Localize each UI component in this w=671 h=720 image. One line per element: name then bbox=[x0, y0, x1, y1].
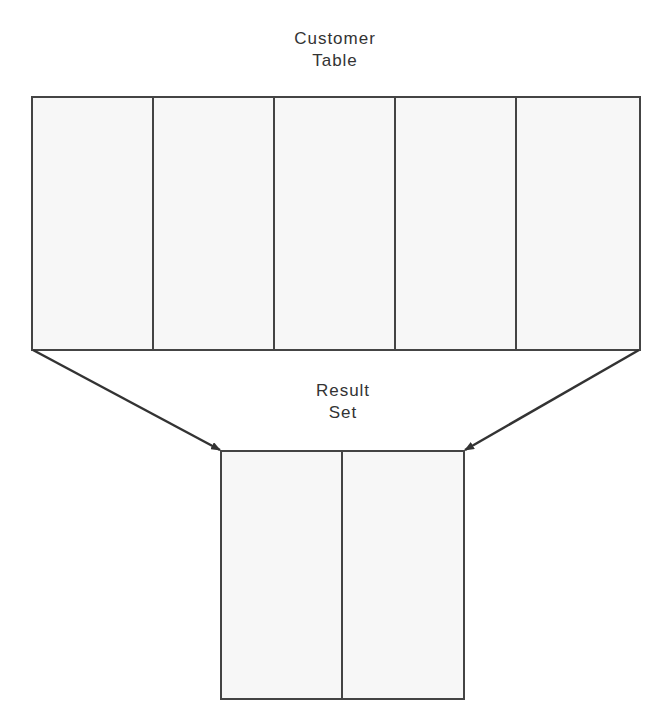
customer-table bbox=[32, 97, 640, 350]
right-arrow bbox=[465, 350, 639, 450]
result-set bbox=[221, 451, 464, 699]
customer-table-outline bbox=[32, 97, 640, 350]
diagram-canvas bbox=[0, 0, 671, 720]
left-arrow bbox=[33, 350, 220, 450]
